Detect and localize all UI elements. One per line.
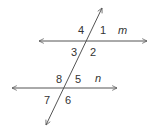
line-label-n: n xyxy=(95,72,101,84)
angle-label-2: 2 xyxy=(90,46,96,58)
angle-label-8: 8 xyxy=(56,73,62,85)
angle-label-5: 5 xyxy=(75,73,81,85)
angle-label-7: 7 xyxy=(44,94,50,106)
angle-label-4: 4 xyxy=(78,24,84,36)
angle-label-3: 3 xyxy=(71,46,77,58)
angle-label-1: 1 xyxy=(100,24,106,36)
angle-label-6: 6 xyxy=(65,94,71,106)
transversal-line xyxy=(46,8,102,125)
line-label-m: m xyxy=(118,24,127,36)
parallel-lines-diagram: 4 1 3 2 m 8 5 7 6 n xyxy=(0,0,149,132)
